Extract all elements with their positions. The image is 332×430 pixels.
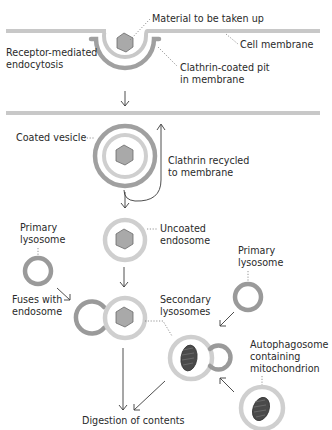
arrow-digestion-right <box>134 381 165 410</box>
arrow-digestion-left <box>119 348 127 410</box>
label-cell-membrane: Cell membrane <box>240 39 314 50</box>
endocytosis-diagram: Material to be taken up Cell membrane Re… <box>0 0 332 430</box>
leader-pit <box>158 47 177 66</box>
label-primary-right-1: Primary <box>238 245 275 256</box>
label-fuses-2: endosome <box>12 306 62 317</box>
label-coated-vesicle: Coated vesicle <box>16 132 86 143</box>
cargo-hexagon <box>117 33 133 52</box>
label-autophagosome-1: Autophagosome <box>250 339 328 350</box>
label-fuses-1: Fuses with <box>12 294 62 305</box>
label-autophagosome-2: containing <box>250 351 300 362</box>
secondary-lysosome-fusing <box>76 298 145 338</box>
uncoated-endosome <box>105 220 145 260</box>
label-process-2: endocytosis <box>6 59 63 70</box>
label-recycle-1: Clathrin recycled <box>168 155 249 166</box>
label-pit-2: in membrane <box>180 74 244 85</box>
label-primary-right-2: lysosome <box>238 257 283 268</box>
arrow-down-3 <box>120 267 128 287</box>
secondary-lysosome-autophagy <box>170 337 230 379</box>
label-primary-left-1: Primary <box>20 222 57 233</box>
label-recycle-2: to membrane <box>168 167 233 178</box>
autophagosome <box>241 387 283 429</box>
leader-cell-membrane <box>226 34 238 44</box>
arrow-autophagosome <box>220 378 234 392</box>
arrow-down-1 <box>121 91 129 106</box>
label-material: Material to be taken up <box>152 13 264 24</box>
label-process-1: Receptor-mediated <box>6 47 97 58</box>
label-digestion: Digestion of contents <box>82 415 185 426</box>
arrow-primary-right <box>220 312 234 326</box>
label-primary-left-2: lysosome <box>20 234 65 245</box>
label-autophagosome-3: mitochondrion <box>250 363 320 374</box>
leader-secondary <box>145 321 172 336</box>
primary-lysosome-right <box>235 284 261 310</box>
label-secondary-1: Secondary <box>160 294 211 305</box>
label-uncoated-1: Uncoated <box>160 223 206 234</box>
label-secondary-2: lysosomes <box>160 306 210 317</box>
primary-lysosome-left <box>25 258 51 284</box>
coated-vesicle <box>95 126 155 186</box>
arrow-down-2 <box>121 192 129 208</box>
label-uncoated-2: endosome <box>160 235 210 246</box>
label-pit-1: Clathrin-coated pit <box>180 62 270 73</box>
